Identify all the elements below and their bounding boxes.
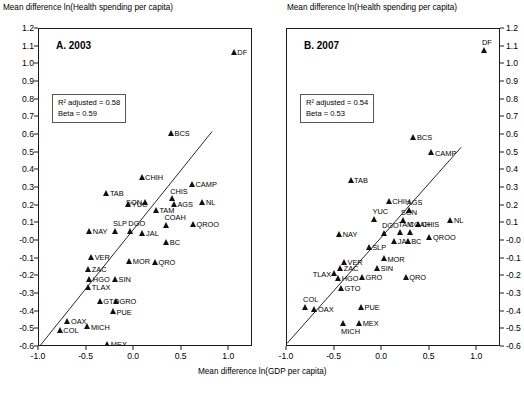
stats-box-a: R² adjusted = 0.58Beta = 0.59 — [52, 94, 126, 123]
triangle-marker-icon — [85, 284, 91, 290]
x-tick-label: 0.0 — [375, 351, 387, 361]
y-tick-mark — [500, 134, 504, 135]
triangle-marker-icon — [407, 229, 413, 235]
x-tick-mark — [476, 346, 477, 350]
y-tick-mark — [34, 293, 38, 294]
y-tick-mark — [34, 204, 38, 205]
x-tick-mark — [381, 346, 382, 350]
triangle-marker-icon — [104, 341, 110, 346]
triangle-marker-icon — [152, 259, 158, 265]
triangle-marker-icon — [405, 238, 411, 244]
triangle-marker-icon — [153, 207, 159, 213]
data-point-label: JAL — [146, 230, 159, 237]
triangle-marker-icon — [190, 221, 196, 227]
triangle-marker-icon — [139, 174, 145, 180]
y-tick-label: 0.5 — [2, 147, 34, 157]
y-tick-mark — [500, 116, 504, 117]
y-tick-mark — [34, 134, 38, 135]
panel-b: DFBCSCAMPTABCHIHAGSYUCSONNLCHISCOAHTAMDG… — [262, 0, 524, 394]
y-tick-label: 1.0 — [2, 58, 34, 68]
y-tick-mark — [500, 187, 504, 188]
data-point-label: MOR — [387, 256, 404, 263]
y-tick-label: -0.2 — [506, 270, 521, 280]
y-tick-label: -0.5 — [2, 323, 34, 333]
beta-value: Beta = 0.59 — [58, 109, 120, 119]
triangle-marker-icon — [189, 181, 195, 187]
triangle-marker-icon — [57, 327, 63, 333]
data-point-label: GRO — [366, 274, 383, 281]
y-tick-mark — [34, 187, 38, 188]
y-tick-mark — [34, 169, 38, 170]
data-point-label: ZAC — [344, 265, 359, 272]
triangle-marker-icon — [139, 230, 145, 236]
x-tick-mark — [286, 346, 287, 350]
y-tick-label: -0.6 — [506, 341, 521, 351]
y-tick-label: -0.1 — [2, 253, 34, 263]
triangle-marker-icon — [64, 318, 70, 324]
y-tick-mark — [34, 328, 38, 329]
y-tick-label: -0.4 — [506, 306, 521, 316]
triangle-marker-icon — [356, 320, 362, 326]
data-point-label: MICH — [91, 324, 110, 331]
y-tick-label: 0.3 — [506, 182, 518, 192]
y-tick-label: 0.2 — [506, 200, 518, 210]
triangle-marker-icon — [428, 149, 434, 155]
figure-scatter-panels: Mean difference ln(Health spending per c… — [0, 0, 524, 394]
data-point-label: BCS — [175, 130, 190, 137]
y-tick-label: -0.3 — [2, 288, 34, 298]
triangle-marker-icon — [231, 49, 237, 55]
y-tick-label: 0.6 — [506, 129, 518, 139]
triangle-marker-icon — [86, 228, 92, 234]
y-tick-mark — [500, 81, 504, 82]
panel-label-b: B. 2007 — [304, 40, 339, 51]
triangle-marker-icon — [338, 285, 344, 291]
data-point-label: DGO — [382, 222, 399, 229]
y-tick-label: 0.6 — [2, 129, 34, 139]
y-tick-mark — [500, 275, 504, 276]
x-tick-label: 1.0 — [222, 351, 234, 361]
triangle-marker-icon — [374, 265, 380, 271]
data-point-label: SIN — [381, 265, 393, 272]
y-tick-mark — [34, 257, 38, 258]
r2-adjusted-value: R² adjusted = 0.54 — [306, 98, 368, 108]
y-tick-label: -0.0 — [2, 235, 34, 245]
y-tick-label: -0.0 — [506, 235, 521, 245]
y-tick-label: 0.8 — [2, 94, 34, 104]
x-tick-mark — [333, 346, 334, 350]
triangle-marker-icon — [358, 304, 364, 310]
x-tick-label: -0.5 — [326, 351, 341, 361]
y-tick-label: 0.8 — [506, 94, 518, 104]
data-point-label: YUC — [373, 208, 389, 215]
triangle-marker-icon — [163, 222, 169, 228]
x-tick-mark — [180, 346, 181, 350]
y-tick-label: 0.4 — [2, 164, 34, 174]
data-point-label: GTO — [345, 285, 361, 292]
triangle-marker-icon — [426, 234, 432, 240]
data-point-label: DGO — [128, 220, 145, 227]
y-tick-label: -0.4 — [2, 306, 34, 316]
y-tick-mark — [500, 169, 504, 170]
data-point-label: CAMP — [435, 150, 456, 157]
y-tick-label: 1.1 — [2, 41, 34, 51]
x-tick-label: -1.0 — [279, 351, 294, 361]
y-tick-mark — [34, 98, 38, 99]
triangle-marker-icon — [84, 323, 90, 329]
triangle-marker-icon — [86, 276, 92, 282]
triangle-marker-icon — [381, 230, 387, 236]
regression-fit-line — [39, 29, 252, 346]
data-point-label: TAM — [398, 221, 413, 228]
y-tick-mark — [34, 310, 38, 311]
x-tick-label: 1.0 — [470, 351, 482, 361]
triangle-marker-icon — [302, 304, 308, 310]
y-tick-label: 0.9 — [2, 76, 34, 86]
triangle-marker-icon — [127, 228, 133, 234]
data-point-label: DF — [482, 39, 492, 46]
data-point-label: PUE — [117, 309, 132, 316]
x-tick-mark — [85, 346, 86, 350]
x-tick-label: 0.5 — [423, 351, 435, 361]
data-point-label: TAB — [110, 190, 124, 197]
data-point-label: MEX — [111, 341, 127, 346]
y-tick-label: 0.5 — [506, 147, 518, 157]
triangle-marker-icon — [311, 306, 317, 312]
y-tick-mark — [500, 328, 504, 329]
